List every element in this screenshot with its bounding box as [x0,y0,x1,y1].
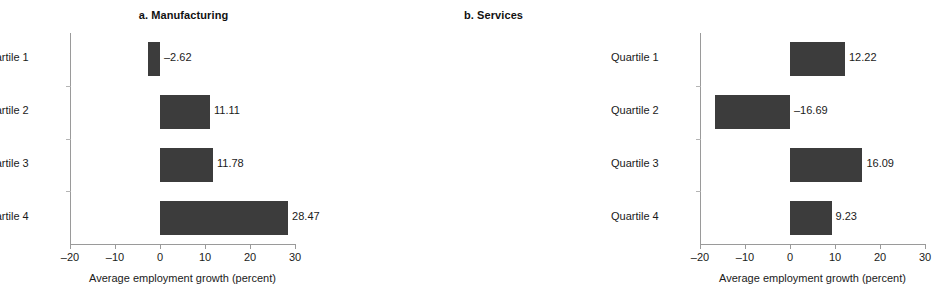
panel-title: a. Manufacturing [0,9,315,21]
bar [715,95,790,129]
y-axis-tick [696,139,701,140]
category-label: Quartile 4 [0,210,61,222]
category-label: Quartile 4 [611,210,691,222]
x-axis-tick-label: –20 [680,251,720,263]
x-axis-tick-label: 30 [275,251,315,263]
bar [160,148,213,182]
x-axis-tick [835,244,836,249]
bar-value-label: 12.22 [849,51,877,63]
bar [160,201,288,235]
x-axis-tick-label: –10 [725,251,765,263]
bar-value-label: 11.78 [217,157,244,169]
x-axis-line [700,244,925,245]
x-axis-tick [160,244,161,249]
x-axis-tick [700,244,701,249]
bar-value-label: 11.11 [214,104,240,116]
y-axis-tick [696,191,701,192]
category-label: Quartile 3 [0,157,61,169]
panel-title: b. Services [315,9,630,21]
x-axis-tick [925,244,926,249]
chart-panel-services: b. Services Average employment growth (p… [315,0,630,296]
x-axis-line [70,244,295,245]
bar-value-label: –16.69 [794,104,828,116]
x-axis-tick-label: –20 [50,251,90,263]
y-axis-tick [66,191,71,192]
x-axis-tick [205,244,206,249]
category-label: Quartile 2 [0,104,61,116]
x-axis-tick [70,244,71,249]
category-label: Quartile 3 [611,157,691,169]
x-axis-tick [790,244,791,249]
x-axis-tick [115,244,116,249]
category-label: Quartile 1 [0,51,61,63]
y-axis-tick [66,139,71,140]
x-axis-tick-label: 30 [905,251,936,263]
x-axis-tick-label: 20 [860,251,900,263]
x-axis-tick-label: 10 [815,251,855,263]
category-label: Quartile 1 [611,51,691,63]
x-axis-tick-label: 20 [230,251,270,263]
chart-panel-manufacturing: a. Manufacturing Average employment grow… [0,0,315,296]
bar [790,42,845,76]
category-label: Quartile 2 [611,104,691,116]
bar [148,42,160,76]
plot-area: Average employment growth (percent) –20–… [700,33,925,244]
x-axis-tick-label: 10 [185,251,225,263]
plot-area: Average employment growth (percent) –20–… [70,33,295,244]
x-axis-tick [745,244,746,249]
bar-value-label: 16.09 [866,157,894,169]
bar [160,95,210,129]
y-axis-tick [696,86,701,87]
bar [790,201,832,235]
x-axis-tick [250,244,251,249]
bar-value-label: 9.23 [836,210,857,222]
bar-value-label: –2.62 [164,51,192,63]
x-axis-tick-label: 0 [770,251,810,263]
bar [790,148,862,182]
x-axis-tick-label: 0 [140,251,180,263]
x-axis-title: Average employment growth (percent) [70,272,295,284]
x-axis-title: Average employment growth (percent) [700,272,925,284]
x-axis-tick [295,244,296,249]
x-axis-tick [880,244,881,249]
y-axis-tick [66,86,71,87]
x-axis-tick-label: –10 [95,251,135,263]
